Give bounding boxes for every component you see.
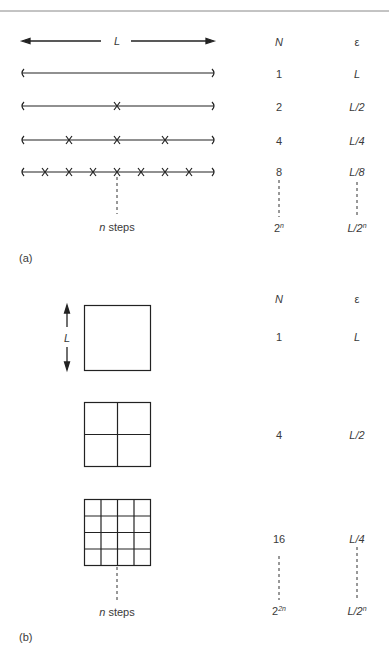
eps-limit-a: L/2n <box>347 222 366 234</box>
segment-row-1 <box>22 69 214 77</box>
part-label-a: (a) <box>19 253 32 264</box>
steps-word: steps <box>108 606 134 618</box>
n-value: 4 <box>276 430 282 441</box>
n-value: 2 <box>276 102 282 113</box>
segment-row-4 <box>22 168 214 176</box>
eps-limit-base: L/2 <box>347 222 362 234</box>
n-value: 1 <box>276 69 282 80</box>
part-label-b: (b) <box>19 632 32 643</box>
steps-label-a: n steps <box>99 222 134 233</box>
n-limit-a: 2n <box>274 222 284 234</box>
length-label-a: L <box>114 36 120 47</box>
eps-value: L/4 <box>349 534 364 545</box>
n-value: 4 <box>276 136 282 147</box>
col-n-header-a: N <box>275 37 283 48</box>
eps-value: L/2 <box>349 102 364 113</box>
eps-limit-exp: n <box>363 222 367 229</box>
eps-value: L <box>354 69 360 80</box>
col-eps-header-b: ε <box>355 294 360 305</box>
eps-value: L/2 <box>349 430 364 441</box>
col-n-header-b: N <box>275 294 283 305</box>
eps-value: L/8 <box>349 167 364 178</box>
steps-word: steps <box>108 221 134 233</box>
eps-value: L <box>354 332 360 343</box>
n-limit-exp: n <box>280 222 284 229</box>
steps-n: n <box>99 221 105 233</box>
part-a-text: (a) <box>19 252 32 264</box>
segment-row-2 <box>22 102 214 110</box>
eps-value: L/4 <box>349 136 364 147</box>
eps-limit-b: L/2n <box>347 605 366 617</box>
diagram-canvas <box>0 0 389 654</box>
length-label-b: L <box>64 333 70 344</box>
col-eps-header-a: ε <box>355 37 360 48</box>
grid-square-1x1 <box>85 306 151 371</box>
segment-row-3 <box>22 136 214 144</box>
n-value: 1 <box>276 332 282 343</box>
steps-label-b: n steps <box>99 607 134 618</box>
n-limit-b: 22n <box>272 605 286 617</box>
grid-square-2x2 <box>85 403 151 467</box>
steps-n: n <box>99 606 105 618</box>
n-value: 8 <box>276 167 282 178</box>
eps-limit-base: L/2 <box>347 605 362 617</box>
grid-square-4x4 <box>85 500 151 566</box>
eps-limit-exp: n <box>363 605 367 612</box>
n-value: 16 <box>273 534 285 545</box>
part-b-text: (b) <box>19 631 32 643</box>
n-limit-exp: 2n <box>278 605 286 612</box>
